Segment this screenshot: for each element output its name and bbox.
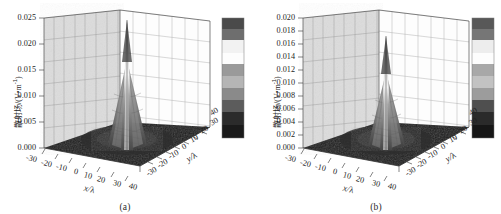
z-tick-label-a-2: 0.010 bbox=[2, 91, 36, 100]
z-axis-ticks-a bbox=[39, 18, 44, 148]
z-tick-label-b-10: 0.020 bbox=[261, 13, 295, 22]
panel-a: 散射场/(V•m-1) 0.025 0.020 0.015 0.010 0.00… bbox=[0, 0, 250, 214]
z-axis-exp-a: -1 bbox=[12, 79, 18, 84]
panel-b: 散射场/(V•m-1) 0.020 0.018 0.016 0.014 0.01… bbox=[251, 0, 501, 214]
z-axis-ticks-b bbox=[298, 18, 303, 148]
z-tick-label-b-3: 0.006 bbox=[261, 104, 295, 113]
z-tick-label-b-6: 0.012 bbox=[261, 65, 295, 74]
z-tick-label-b-7: 0.014 bbox=[261, 52, 295, 61]
z-tick-label-b-8: 0.016 bbox=[261, 39, 295, 48]
z-tick-label-b-0: 0.000 bbox=[261, 143, 295, 152]
z-tick-label-b-4: 0.008 bbox=[261, 91, 295, 100]
z-tick-label-b-9: 0.018 bbox=[261, 26, 295, 35]
z-tick-label-a-3: 0.015 bbox=[2, 65, 36, 74]
grayscale-colorbar-a bbox=[222, 18, 244, 138]
z-tick-label-b-1: 0.002 bbox=[261, 130, 295, 139]
z-tick-label-a-0: 0.000 bbox=[2, 143, 36, 152]
z-tick-label-b-2: 0.004 bbox=[261, 117, 295, 126]
panel-caption-b: (b) bbox=[251, 202, 501, 212]
z-tick-label-b-5: 0.010 bbox=[261, 78, 295, 87]
z-tick-label-a-1: 0.005 bbox=[2, 117, 36, 126]
z-axis-paren-a: ) bbox=[14, 76, 23, 79]
panel-caption-a: (a) bbox=[0, 202, 250, 212]
z-tick-label-a-5: 0.025 bbox=[2, 13, 36, 22]
figure-container: 散射场/(V•m-1) 0.025 0.020 0.015 0.010 0.00… bbox=[0, 0, 501, 214]
z-tick-label-a-4: 0.020 bbox=[2, 39, 36, 48]
